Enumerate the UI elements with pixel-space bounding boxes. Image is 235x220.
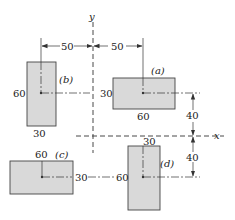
shape-a-height: 30	[100, 88, 113, 99]
shape-a-width: 60	[137, 111, 150, 122]
shape-label-b: (b)	[59, 74, 73, 85]
dim-label-upper-40: 40	[186, 110, 199, 121]
diagram-canvas: y x 50 50 40 40 (a) 60 30 (b) 30 60 (c) …	[0, 0, 235, 220]
shape-b-width: 30	[33, 128, 46, 139]
shape-d-width: 30	[143, 136, 156, 147]
rectangle-d	[128, 146, 160, 210]
shape-c-height: 30	[75, 172, 88, 183]
x-axis-label: x	[214, 130, 220, 141]
shape-c-width: 60	[35, 149, 48, 160]
shape-b-height: 60	[13, 88, 26, 99]
y-axis-label: y	[88, 11, 95, 22]
shape-label-d: (d)	[160, 158, 174, 169]
centroid-b	[40, 92, 42, 94]
dim-label-left-50: 50	[61, 41, 74, 52]
centroid-d	[142, 176, 144, 178]
centroid-c	[41, 176, 43, 178]
dim-label-lower-40: 40	[186, 152, 199, 163]
dim-label-right-50: 50	[111, 41, 124, 52]
centroid-a	[142, 92, 144, 94]
shape-label-a: (a)	[151, 65, 165, 76]
shape-label-c: (c)	[55, 149, 69, 160]
shape-d-height: 60	[116, 172, 129, 183]
